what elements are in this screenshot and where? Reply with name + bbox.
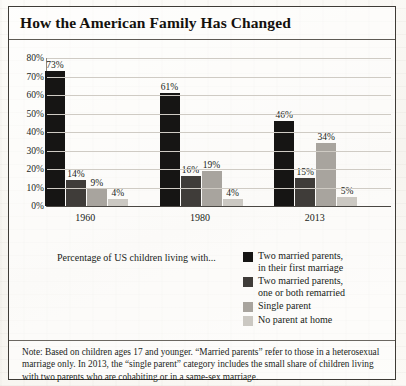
gridline (47, 77, 391, 78)
bar (295, 178, 315, 206)
gridline (47, 151, 391, 152)
gridline (47, 188, 391, 189)
gridline (47, 58, 391, 59)
y-axis: 0%10%20%30%40%50%60%70%80% (8, 52, 44, 206)
x-axis-tick-label: 2013 (305, 212, 325, 223)
legend-label: Two married parents, in their first marr… (258, 250, 343, 273)
legend-swatch-icon (243, 316, 253, 326)
legend-caption: Percentage of US children living with... (57, 252, 216, 263)
y-axis-tick-label: 40% (8, 127, 44, 137)
bar-value-label: 4% (226, 188, 239, 198)
bar (316, 143, 336, 206)
legend-item: Two married parents, in their first marr… (243, 250, 393, 273)
plot-wrapper: 0%10%20%30%40%50%60%70%80% 73%14%9%4%61%… (0, 0, 406, 386)
footnote-divider (9, 340, 395, 341)
y-axis-tick-label: 60% (8, 90, 44, 100)
y-axis-tick-label: 20% (8, 164, 44, 174)
y-axis-tick-label: 50% (8, 109, 44, 119)
legend-label: Two married parents, one or both remarri… (258, 275, 345, 298)
legend-swatch-icon (243, 252, 253, 262)
bar (87, 189, 107, 206)
bar (66, 180, 86, 206)
chart-legend: Two married parents, in their first marr… (243, 250, 393, 328)
legend-label: Single parent (258, 300, 311, 312)
legend-item: No parent at home (243, 314, 393, 326)
footnote-text: Note: Based on children ages 17 and youn… (22, 346, 384, 383)
bar-value-label: 16% (182, 165, 199, 175)
gridline (47, 169, 391, 170)
gridline (47, 95, 391, 96)
legend-swatch-icon (243, 277, 253, 287)
y-axis-tick-label: 30% (8, 146, 44, 156)
x-axis-tick-label: 1980 (190, 212, 210, 223)
gridline (47, 114, 391, 115)
x-axis-tick-label: 1960 (75, 212, 95, 223)
bar (45, 71, 65, 206)
gridline (47, 132, 391, 133)
legend-item: Two married parents, one or both remarri… (243, 275, 393, 298)
legend-label: No parent at home (258, 314, 332, 326)
bar (181, 176, 201, 206)
bar-value-label: 73% (46, 60, 63, 70)
y-axis-tick-label: 0% (8, 201, 44, 211)
bar-value-label: 61% (161, 82, 178, 92)
bar (337, 197, 357, 206)
bar-value-label: 34% (317, 132, 334, 142)
chart-page: How the American Family Has Changed 0%10… (0, 0, 406, 386)
bar (223, 199, 243, 206)
bar-value-label: 14% (67, 169, 84, 179)
legend-swatch-icon (243, 302, 253, 312)
y-axis-tick-label: 80% (8, 53, 44, 63)
bar-value-label: 4% (112, 188, 125, 198)
y-axis-tick-label: 70% (8, 72, 44, 82)
y-axis-tick-label: 10% (8, 183, 44, 193)
legend-item: Single parent (243, 300, 393, 312)
bar (108, 199, 128, 206)
bar-value-label: 46% (275, 110, 292, 120)
plot-area: 73%14%9%4%61%16%19%4%46%15%34%5% (46, 58, 391, 207)
bar (274, 121, 294, 206)
